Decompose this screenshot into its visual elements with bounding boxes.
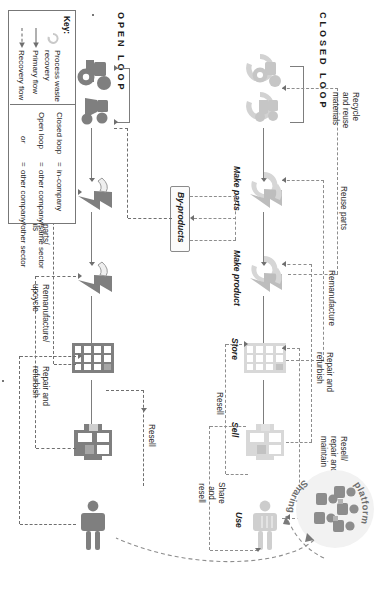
closed-recovery-drop-reuse (282, 180, 324, 181)
byproducts-feed-make-parts (190, 196, 236, 197)
open-resell-rail (143, 390, 144, 486)
closed-share-resell-drop (210, 426, 246, 427)
open-recovery-riser-repair (20, 524, 76, 525)
key-label-process-waste-recovery: Process waste recovery (42, 50, 62, 108)
circular-economy-diagram: CLOSED LOOP OPEN LOOP (0, 0, 376, 594)
open-recovery-label-resell: Resell (146, 424, 156, 447)
closed-recovery-label-recycle: Recycle and reuse materials (330, 92, 360, 178)
closed-resell-riser (226, 474, 248, 475)
closed-source-bracket-left (290, 66, 304, 67)
closed-recovery-label-reuse-parts: Reuse parts (338, 186, 348, 270)
legend-or-term: or (18, 136, 28, 143)
closed-resell-arrow (244, 341, 248, 347)
key-panel (92, 14, 94, 16)
open-recovery-label-repair-refurbish: Repair and refurbish (30, 366, 50, 450)
open-source-bracket-right (116, 122, 130, 123)
legend-closed-loop-eq: = (54, 162, 64, 167)
byproducts-label: By-products (176, 192, 186, 243)
open-recovery-arrow-repair (78, 353, 82, 359)
open-use-to-sharing-platform-flow (98, 500, 328, 590)
legend-or-eq: = (18, 162, 28, 167)
legend-open-loop-meaning: other company/same sector (36, 170, 46, 269)
closed-recovery-label-remanufacture: Remanufacture (326, 270, 336, 362)
closed-store-icon (242, 338, 288, 378)
open-resell-arrow (141, 408, 147, 412)
open-recovery-riser-reuse (54, 364, 76, 365)
byproducts-out-drop (114, 128, 128, 129)
closed-recovery-rail-reuse (323, 180, 324, 360)
track-label-open-loop: OPEN LOOP (116, 12, 126, 93)
closed-resell-rail (225, 344, 226, 474)
closed-source-bracket (303, 66, 304, 122)
legend-open-loop-eq: = (36, 162, 46, 167)
closed-recovery-drop-remanufacture (282, 264, 312, 265)
dashed-arrow-icon (18, 28, 26, 48)
stage-label-store: Store (230, 338, 240, 360)
svg-text:platform: platform (352, 479, 372, 525)
closed-recovery-rail-remanufacture (311, 264, 312, 442)
closed-forward-label-resell: Resell (214, 392, 224, 415)
stage-label-make-product: Make product (232, 250, 242, 306)
closed-source-bracket-right (290, 122, 304, 123)
open-recovery-arrow-remanufacture (78, 273, 82, 279)
legend-or-meaning: other company/other sector (18, 170, 28, 267)
key-label-primary-flow: Primary flow (30, 50, 40, 94)
key-title: Key: (62, 16, 72, 34)
sharing-platform-to-use-arrow (286, 514, 290, 520)
open-source-arrow-right (114, 119, 118, 125)
closed-resell-drop (226, 344, 242, 345)
diagram-rotation-wrapper: CLOSED LOOP OPEN LOOP (0, 0, 376, 594)
stage-label-sell: Sell (230, 422, 240, 437)
process-waste-recovery-icon (46, 30, 62, 46)
byproducts-arrow-stem (194, 218, 236, 219)
open-sell-icon (70, 420, 116, 464)
legend-closed-loop-meaning: in-company (54, 170, 64, 211)
legend-closed-loop-term: Closed loop (54, 112, 64, 154)
open-store-icon (70, 338, 116, 378)
byproducts-feed-make-product (190, 240, 236, 241)
open-source-bracket (129, 68, 130, 122)
legend-open-loop-term: Open loop (36, 112, 46, 149)
key-label-recovery-flow: Recovery flow (16, 50, 26, 100)
open-recovery-arrow-reuse (78, 189, 82, 195)
closed-recovery-arrow-reuse (282, 177, 286, 183)
open-recovery-drop-repair (20, 356, 76, 357)
closed-recovery-drop-recycle (282, 88, 338, 89)
track-label-closed-loop: CLOSED LOOP (318, 12, 328, 111)
stage-label-make-parts: Make parts (232, 166, 242, 211)
closed-recovery-arrow-recycle (282, 85, 286, 91)
key-legend-box (2, 380, 4, 382)
open-resell-drop (106, 390, 144, 391)
solid-arrow-icon (32, 28, 40, 48)
closed-recovery-arrow-remanufacture (282, 261, 286, 267)
byproducts-out-rail (127, 128, 128, 218)
open-recovery-rail-repair (19, 356, 20, 524)
closed-recovery-label-repair-refurbish: Repair and refurbish (314, 352, 334, 440)
byproducts-out-stem (128, 218, 172, 219)
open-source-bracket-left (116, 68, 130, 69)
open-source-arrow-left (114, 65, 118, 71)
closed-recovery-arrow-repair (282, 345, 286, 351)
open-recovery-drop-remanufacture (36, 276, 76, 277)
